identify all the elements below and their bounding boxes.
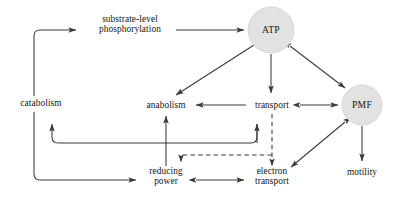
edge-catabolism-to-reducing-power <box>34 112 136 180</box>
node-label-anabolism: anabolism <box>126 100 206 110</box>
edge-catabolism-to-slp <box>34 30 76 96</box>
node-label-substrate-level-phosphorylation: substrate-level phosphorylation <box>76 14 184 35</box>
edge-return-bus-to-catabolism <box>52 124 257 143</box>
reducing-power-line-1: reducing <box>149 166 182 176</box>
electron-transport-line-1: electron <box>257 166 288 176</box>
reducing-power-line-2: power <box>154 176 178 186</box>
electron-transport-line-2: transport <box>255 176 289 186</box>
node-label-transport: transport <box>237 100 307 110</box>
node-label-electron-transport: electron transport <box>236 166 308 187</box>
slp-line-2: phosphorylation <box>99 24 161 34</box>
edge-transport-to-reducing-power-dashed <box>181 155 272 162</box>
node-label-reducing-power: reducing power <box>130 166 202 187</box>
edge-atp-to-anabolism <box>176 45 254 95</box>
edge-atp-pmf <box>290 46 345 88</box>
node-label-motility: motility <box>332 167 392 177</box>
node-label-catabolism: catabolism <box>0 98 82 108</box>
node-label-pmf: PMF <box>332 100 392 110</box>
node-label-atp: ATP <box>241 25 301 35</box>
edge-pmf-electron-transport <box>291 122 345 167</box>
slp-line-1: substrate-level <box>102 14 158 24</box>
metabolism-flow-diagram: catabolism substrate-level phosphorylati… <box>0 0 401 201</box>
